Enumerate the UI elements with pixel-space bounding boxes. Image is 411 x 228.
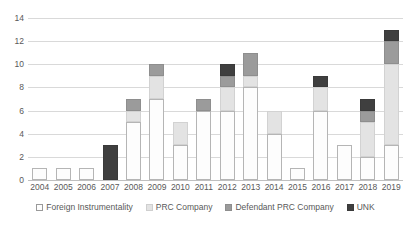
bar-segment-unk[interactable] [220,64,235,76]
bar-segment-prc[interactable] [384,64,399,145]
bar-group[interactable] [360,99,375,180]
bar-segment-fi[interactable] [313,111,328,180]
bar-group[interactable] [384,30,399,180]
y-tick-label: 4 [2,129,24,139]
x-tick-label: 2017 [335,182,354,192]
x-tick-label: 2010 [171,182,190,192]
bar-segment-prc[interactable] [267,111,282,134]
bar-segment-fi[interactable] [56,168,71,180]
axis-baseline [28,180,403,181]
bar-segment-fi[interactable] [267,134,282,180]
x-tick-label: 2004 [30,182,49,192]
bar-segment-unk[interactable] [313,76,328,88]
bar-segment-def[interactable] [196,99,211,111]
bar-segment-fi[interactable] [149,99,164,180]
legend-swatch-icon [36,204,43,211]
legend-label: UNK [357,202,375,212]
y-tick-label: 8 [2,82,24,92]
bar-segment-def[interactable] [126,99,141,111]
bar-segment-fi[interactable] [32,168,47,180]
legend-swatch-icon [347,204,354,211]
bar-group[interactable] [79,168,94,180]
bar-group[interactable] [32,168,47,180]
bar-segment-fi[interactable] [337,145,352,180]
bar-group[interactable] [267,111,282,180]
bar-group[interactable] [290,168,305,180]
bar-segment-fi[interactable] [79,168,94,180]
x-tick-label: 2009 [147,182,166,192]
legend-item[interactable]: Defendant PRC Company [225,202,333,212]
bar-segment-fi[interactable] [360,157,375,180]
y-tick-label: 14 [2,13,24,23]
stacked-bar-chart: 02468101214 2004200520062007200820092010… [0,0,411,228]
chart-legend: Foreign InstrumentalityPRC CompanyDefend… [0,202,411,212]
bar-segment-fi[interactable] [220,111,235,180]
bar-segment-def[interactable] [360,111,375,123]
bar-segment-prc[interactable] [360,122,375,157]
bar-segment-unk[interactable] [384,30,399,42]
legend-label: Foreign Instrumentality [46,202,132,212]
x-tick-label: 2015 [288,182,307,192]
y-tick-label: 2 [2,152,24,162]
y-tick-label: 10 [2,59,24,69]
x-tick-label: 2016 [312,182,331,192]
bar-group[interactable] [196,99,211,180]
bar-group[interactable] [220,64,235,180]
x-tick-label: 2011 [195,182,213,192]
x-tick-label: 2019 [382,182,401,192]
x-tick-label: 2014 [265,182,284,192]
bars-layer [28,18,403,180]
bar-group[interactable] [103,145,118,180]
legend-item[interactable]: PRC Company [146,202,213,212]
legend-swatch-icon [146,204,153,211]
x-tick-label: 2018 [358,182,377,192]
x-tick-label: 2005 [54,182,73,192]
legend-item[interactable]: UNK [347,202,375,212]
bar-segment-fi[interactable] [243,87,258,180]
bar-segment-prc[interactable] [243,76,258,88]
bar-segment-def[interactable] [149,64,164,76]
bar-segment-prc[interactable] [149,76,164,99]
bar-group[interactable] [337,145,352,180]
legend-label: Defendant PRC Company [235,202,333,212]
x-tick-label: 2013 [241,182,260,192]
bar-segment-fi[interactable] [173,145,188,180]
bar-group[interactable] [313,76,328,180]
bar-group[interactable] [126,99,141,180]
x-tick-label: 2006 [77,182,96,192]
bar-segment-def[interactable] [243,53,258,76]
bar-group[interactable] [149,64,164,180]
legend-label: PRC Company [156,202,213,212]
y-tick-label: 6 [2,106,24,116]
bar-segment-unk[interactable] [103,145,118,180]
y-tick-label: 0 [2,175,24,185]
y-tick-label: 12 [2,36,24,46]
bar-group[interactable] [243,53,258,180]
x-tick-label: 2012 [218,182,237,192]
y-axis-labels: 02468101214 [0,18,24,180]
bar-group[interactable] [173,122,188,180]
x-axis-labels: 2004200520062007200820092010201120122013… [28,182,403,198]
bar-segment-unk[interactable] [360,99,375,111]
bar-group[interactable] [56,168,71,180]
bar-segment-fi[interactable] [384,145,399,180]
x-tick-label: 2007 [101,182,120,192]
bar-segment-def[interactable] [384,41,399,64]
bar-segment-fi[interactable] [196,111,211,180]
bar-segment-fi[interactable] [290,168,305,180]
bar-segment-fi[interactable] [126,122,141,180]
bar-segment-prc[interactable] [220,87,235,110]
bar-segment-prc[interactable] [126,111,141,123]
x-tick-label: 2008 [124,182,143,192]
legend-item[interactable]: Foreign Instrumentality [36,202,132,212]
bar-segment-prc[interactable] [313,87,328,110]
bar-segment-prc[interactable] [173,122,188,145]
legend-swatch-icon [225,204,232,211]
bar-segment-def[interactable] [220,76,235,88]
